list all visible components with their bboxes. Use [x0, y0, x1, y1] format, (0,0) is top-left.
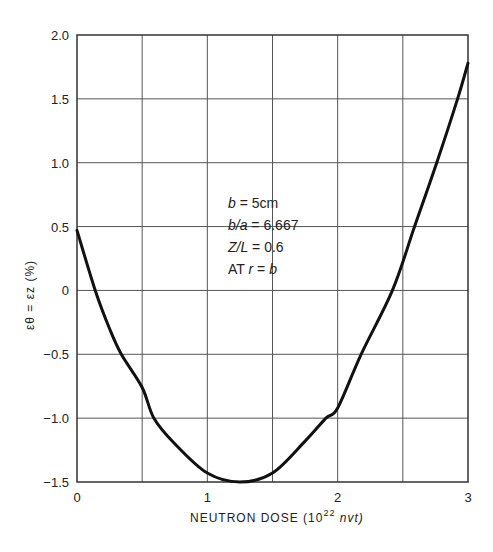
y-tick-label: 0.5: [51, 220, 69, 235]
y-axis-label: εθ = εz (%): [23, 260, 37, 330]
x-tick-label: 0: [73, 490, 80, 505]
grid-lines: [77, 35, 468, 482]
svg-text:Z/L = 0.6: Z/L = 0.6: [227, 239, 284, 255]
svg-text:b = 5cm: b = 5cm: [228, 195, 278, 211]
x-tick-label: 1: [204, 490, 211, 505]
x-tick-label: 3: [464, 490, 471, 505]
x-tick-label: 2: [334, 490, 341, 505]
x-axis-label: NEUTRON DOSE (1022 nvt): [190, 508, 364, 525]
y-tick-label: −1.5: [43, 475, 69, 490]
y-tick-label: 1.5: [51, 92, 69, 107]
parameter-annotation: b = 5cm b/a = 6.667 Z/L = 0.6 AT r = b: [227, 195, 299, 277]
y-tick-label: 0: [62, 283, 69, 298]
y-tick-label: 1.0: [51, 156, 69, 171]
y-tick-label: −1.0: [43, 411, 69, 426]
y-tick-label: 2.0: [51, 28, 69, 43]
svg-text:b/a = 6.667: b/a = 6.667: [228, 217, 299, 233]
x-tick-labels: 0123: [73, 490, 471, 505]
y-tick-labels: 2.01.51.00.50−0.5−1.0−1.5: [43, 28, 69, 490]
y-tick-label: −0.5: [43, 347, 69, 362]
svg-text:AT r = b: AT r = b: [228, 261, 277, 277]
strain-vs-dose-chart: 2.01.51.00.50−0.5−1.0−1.5 0123 b = 5cm b…: [0, 0, 493, 552]
